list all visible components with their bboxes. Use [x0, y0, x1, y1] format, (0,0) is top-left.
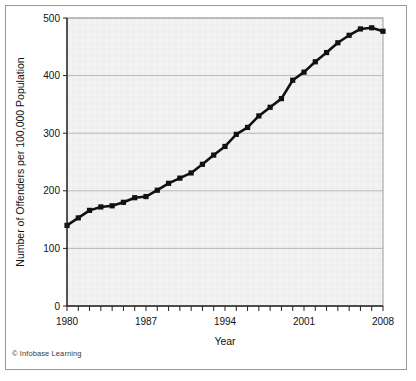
x-axis-ticks [67, 306, 383, 311]
plot-area [67, 18, 383, 306]
svg-text:300: 300 [43, 128, 60, 139]
svg-text:200: 200 [43, 185, 60, 196]
y-axis-tick-labels: 0100200300400500 [43, 13, 60, 312]
copyright-credit: © Infobase Learning [12, 349, 82, 358]
svg-text:1994: 1994 [214, 316, 237, 327]
svg-text:2008: 2008 [372, 316, 395, 327]
y-axis-title: Number of Offenders per 100,000 Populati… [14, 57, 26, 267]
svg-text:1980: 1980 [56, 316, 79, 327]
x-axis-title: Year [214, 335, 236, 347]
svg-text:500: 500 [43, 13, 60, 24]
svg-text:1987: 1987 [135, 316, 158, 327]
svg-text:400: 400 [43, 70, 60, 81]
chart-figure: 0100200300400500 19801987199420012008 Ye… [0, 0, 416, 381]
svg-text:2001: 2001 [293, 316, 316, 327]
svg-text:0: 0 [54, 301, 60, 312]
svg-text:100: 100 [43, 243, 60, 254]
x-axis-tick-labels: 19801987199420012008 [56, 316, 395, 327]
line-chart: 0100200300400500 19801987199420012008 Ye… [0, 0, 416, 381]
